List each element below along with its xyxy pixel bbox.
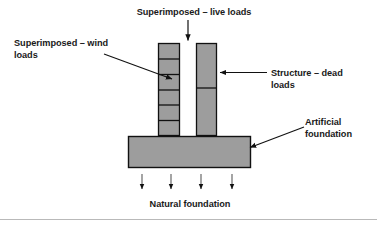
label-superimposed-live-loads: Superimposed – live loads [124, 7, 264, 19]
artificial-foundation-slab [129, 137, 251, 168]
left-column-group [159, 44, 180, 136]
right-column-group [197, 44, 217, 136]
label-superimposed-wind-loads: Superimposed – wind loads [14, 38, 132, 61]
diagram-graphics [0, 0, 377, 228]
bottom-divider [0, 219, 377, 220]
label-natural-foundation: Natural foundation [110, 199, 270, 211]
label-artificial-foundation: Artificial foundation [305, 117, 377, 140]
reaction-arrows-group [142, 174, 232, 189]
label-structure-dead-loads: Structure – dead loads [271, 68, 375, 91]
diagram-canvas: Superimposed – live loads Superimposed –… [0, 0, 377, 228]
solid-column [197, 44, 217, 136]
artificial-foundation-arrow [250, 127, 304, 148]
